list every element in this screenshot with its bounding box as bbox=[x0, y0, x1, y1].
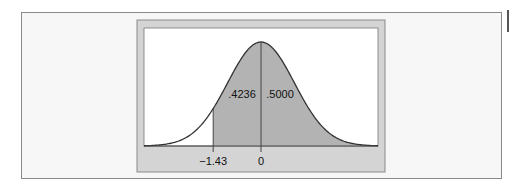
area-label-left: .4236 bbox=[228, 88, 256, 100]
normal-curve-chart: −1.43 0 .4236 .5000 bbox=[0, 0, 518, 185]
tick-label-mean: 0 bbox=[258, 155, 264, 167]
tick-label-z: −1.43 bbox=[199, 155, 227, 167]
area-label-right: .5000 bbox=[266, 88, 294, 100]
